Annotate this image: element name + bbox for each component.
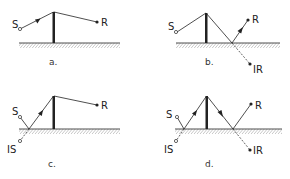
receiver-label: R <box>101 100 108 111</box>
source-label: S <box>168 21 174 32</box>
arrow-icon <box>192 110 197 116</box>
barrier <box>53 12 56 43</box>
image-receiver-label: IR <box>253 64 263 75</box>
receiver-label: R <box>101 17 108 28</box>
ray-source-to-ground <box>20 117 29 129</box>
panel-b: S R IR b. <box>168 13 280 75</box>
receiver-point <box>249 102 252 105</box>
ray-edge-to-ground <box>206 13 232 43</box>
source-label: S <box>166 109 172 120</box>
ground-hatch <box>175 129 282 134</box>
source-point <box>18 27 21 30</box>
diffraction-barrier-diagram: S R a. S R IR b. S IS R c. <box>0 0 290 179</box>
ray-source-to-ground <box>177 117 184 129</box>
receiver-point <box>246 18 249 21</box>
panel-caption: c. <box>48 159 56 169</box>
source-point <box>18 115 21 118</box>
receiver-point <box>95 103 98 106</box>
barrier <box>206 96 209 129</box>
image-source-point <box>18 139 21 142</box>
arrow-icon <box>238 27 244 34</box>
receiver-point <box>95 20 98 23</box>
ray-edge-to-receiver <box>54 12 97 22</box>
panel-caption: b. <box>205 57 214 67</box>
image-receiver-point <box>248 148 251 151</box>
panel-caption: d. <box>205 159 214 169</box>
ground-hatch <box>176 43 280 48</box>
ground-hatch <box>19 129 120 134</box>
panel-c: S IS R c. <box>7 96 120 169</box>
ground-hatch <box>19 43 120 48</box>
image-source-label: IS <box>7 144 16 155</box>
image-source-label: IS <box>164 144 173 155</box>
barrier <box>53 96 56 129</box>
ray-edge-to-receiver <box>54 96 97 105</box>
barrier <box>205 13 208 43</box>
arrow-icon <box>38 110 43 116</box>
receiver-label: R <box>255 100 262 111</box>
source-point <box>175 115 178 118</box>
arrow-icon <box>218 110 224 117</box>
source-point <box>174 30 177 33</box>
panel-caption: a. <box>49 57 57 67</box>
ray-source-to-edge <box>177 13 206 32</box>
image-receiver-point <box>248 62 251 65</box>
image-receiver-label: IR <box>253 145 263 156</box>
image-source-point <box>174 139 177 142</box>
panel-d: S IS R IR d. <box>164 96 282 169</box>
source-label: S <box>12 19 18 30</box>
panel-a: S R a. <box>12 12 120 67</box>
receiver-label: R <box>252 14 259 25</box>
ray-ground-to-receiver <box>233 104 251 129</box>
source-label: S <box>12 106 18 117</box>
